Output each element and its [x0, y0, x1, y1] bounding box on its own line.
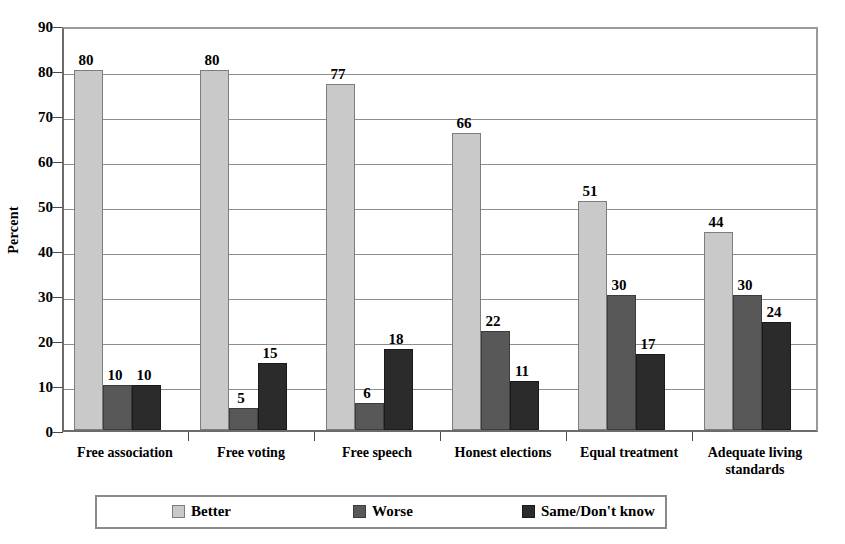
- bar-value-label: 17: [628, 337, 668, 352]
- x-category-label: Adequate living standards: [692, 444, 818, 478]
- bar: [704, 232, 733, 430]
- legend-swatch-icon: [353, 505, 366, 518]
- bar: [636, 354, 665, 431]
- bar-value-label: 15: [250, 346, 290, 361]
- gridline: [64, 74, 816, 75]
- bar-value-label: 80: [66, 53, 106, 68]
- bar-value-label: 77: [318, 67, 358, 82]
- bar: [578, 201, 607, 431]
- bar: [762, 322, 791, 430]
- bar: [607, 295, 636, 430]
- y-tick-mark: [52, 432, 63, 433]
- bar: [200, 70, 229, 430]
- y-tick-label: 50: [13, 200, 53, 215]
- legend-label: Better: [191, 504, 231, 519]
- x-category-label: Free association: [62, 444, 188, 461]
- y-tick-label: 80: [13, 65, 53, 80]
- bar-chart: Percent 0102030405060708090 Free associa…: [0, 0, 845, 544]
- legend-item-3[interactable]: Same/Don't know: [522, 504, 655, 519]
- y-axis-title: Percent: [6, 160, 22, 300]
- bar-value-label: 30: [725, 278, 765, 293]
- bar-value-label: 18: [376, 332, 416, 347]
- bar: [132, 385, 161, 430]
- legend-label: Worse: [372, 504, 413, 519]
- bar-value-label: 66: [444, 116, 484, 131]
- y-tick-label: 30: [13, 290, 53, 305]
- x-tick-mark: [440, 432, 441, 441]
- x-tick-mark: [188, 432, 189, 441]
- bar-value-label: 10: [124, 368, 164, 383]
- y-tick-label: 60: [13, 155, 53, 170]
- gridline: [64, 119, 816, 120]
- bar-value-label: 30: [599, 278, 639, 293]
- y-tick-label: 90: [13, 20, 53, 35]
- chart-legend: BetterWorseSame/Don't know: [95, 495, 667, 529]
- x-tick-mark: [566, 432, 567, 441]
- bar: [229, 408, 258, 431]
- x-category-label: Equal treatment: [566, 444, 692, 461]
- y-tick-label: 70: [13, 110, 53, 125]
- bar-value-label: 80: [192, 53, 232, 68]
- y-tick-label: 40: [13, 245, 53, 260]
- x-category-label: Free speech: [314, 444, 440, 461]
- bar: [258, 363, 287, 431]
- scan-artifact-text: [600, 524, 840, 542]
- legend-swatch-icon: [522, 505, 535, 518]
- bar-value-label: 5: [221, 391, 261, 406]
- legend-item-1[interactable]: Better: [172, 504, 231, 519]
- legend-swatch-icon: [172, 505, 185, 518]
- bar: [326, 84, 355, 431]
- legend-label: Same/Don't know: [541, 504, 655, 519]
- x-tick-mark: [314, 432, 315, 441]
- bar: [452, 133, 481, 430]
- gridline: [64, 164, 816, 165]
- bar: [103, 385, 132, 430]
- bar: [481, 331, 510, 430]
- bar-value-label: 24: [754, 305, 794, 320]
- y-tick-label: 20: [13, 335, 53, 350]
- bar-value-label: 11: [502, 364, 542, 379]
- x-category-label: Honest elections: [440, 444, 566, 461]
- bar-value-label: 22: [473, 314, 513, 329]
- bar: [384, 349, 413, 430]
- y-tick-label: 0: [13, 425, 53, 440]
- x-category-label: Free voting: [188, 444, 314, 461]
- bar: [355, 403, 384, 430]
- gridline: [64, 209, 816, 210]
- legend-item-2[interactable]: Worse: [353, 504, 413, 519]
- bar: [510, 381, 539, 431]
- bar-value-label: 44: [696, 215, 736, 230]
- bar-value-label: 6: [347, 386, 387, 401]
- bar-value-label: 51: [570, 184, 610, 199]
- y-tick-label: 10: [13, 380, 53, 395]
- x-tick-mark: [692, 432, 693, 441]
